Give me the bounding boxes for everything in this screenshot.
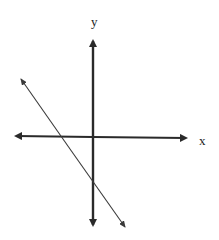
diagonal-line-upper [21,79,70,149]
diagonal-line [70,149,125,227]
x-axis-label: x [199,133,206,148]
x-axis [93,137,186,138]
x-axis-negative [16,136,93,137]
y-axis-label: y [91,14,98,29]
coordinate-diagram: y x [0,0,219,240]
